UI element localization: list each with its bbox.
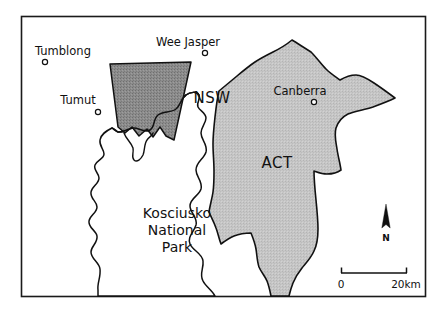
- scale-bar-label-end: 20km: [391, 278, 421, 290]
- region-label-nsw: NSW: [193, 89, 230, 107]
- marker-canberra: [311, 99, 316, 104]
- place-label-tumblong: Tumblong: [34, 44, 91, 58]
- region-label-act: ACT: [261, 154, 292, 172]
- marker-wee-jasper: [202, 50, 207, 55]
- park-label-line-1: Kosciusko: [143, 205, 211, 221]
- map-figure: Tumblong Wee Jasper Tumut Canberra NSW A…: [0, 0, 441, 310]
- place-label-canberra: Canberra: [273, 84, 326, 98]
- park-label-line-2: National: [148, 222, 206, 238]
- marker-tumblong: [42, 59, 47, 64]
- scale-bar-label-start: 0: [338, 278, 345, 290]
- marker-tumut: [95, 109, 100, 114]
- map-canvas: Tumblong Wee Jasper Tumut Canberra NSW A…: [0, 0, 441, 310]
- compass-label-north: N: [382, 233, 390, 243]
- park-label-line-3: Park: [162, 239, 193, 255]
- place-label-wee-jasper: Wee Jasper: [156, 35, 220, 49]
- place-label-tumut: Tumut: [59, 93, 96, 107]
